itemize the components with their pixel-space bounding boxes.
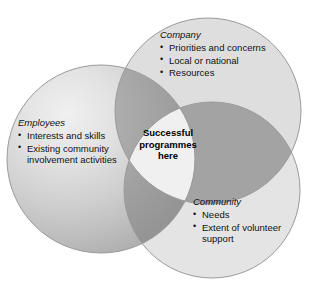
venn-diagram: Employees Interests and skills Existing …	[0, 0, 322, 294]
venn-diagram-graphic	[0, 0, 322, 294]
